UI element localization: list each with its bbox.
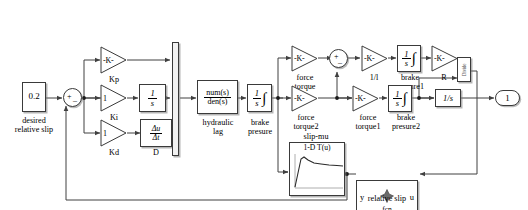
integral-sign-icon-1: ∫ bbox=[412, 53, 416, 64]
derivative-block-d[interactable]: Δu Δt bbox=[140, 119, 172, 147]
integrator-block-brake-pressure1[interactable]: 1 s ∫ bbox=[397, 45, 421, 72]
gain-kp-caption: Kp bbox=[96, 75, 132, 84]
output-port-label: 1 bbox=[505, 93, 510, 103]
gain-r-caption: R bbox=[428, 73, 460, 82]
integrator-block-output[interactable]: 1/s bbox=[435, 89, 461, 107]
brake-pressure1-num: 1 bbox=[402, 50, 410, 59]
sum-block-wheel[interactable]: + _ bbox=[329, 49, 348, 68]
sum-block-error[interactable]: + _ bbox=[63, 88, 82, 107]
gain-block-kd[interactable]: 1 bbox=[100, 119, 127, 147]
gain-inverse-inertia-value: -K- bbox=[364, 54, 375, 63]
gain-force-torque-value: -K- bbox=[294, 54, 305, 63]
brake-pressure2-caption: brake presure2 bbox=[386, 113, 426, 132]
brake-pressure-caption: brake presure bbox=[244, 118, 276, 137]
gain-block-inverse-inertia[interactable]: -K- bbox=[361, 45, 388, 72]
gain-force-torque2-value: -K- bbox=[294, 94, 305, 103]
lookup-table-title: 1-D T(u) bbox=[303, 144, 330, 152]
divide-block[interactable]: Divide bbox=[457, 57, 471, 82]
gain-force-torque1-value: -K- bbox=[355, 94, 366, 103]
brake-pressure1-den: s bbox=[402, 58, 410, 68]
lookup-table-plot bbox=[291, 152, 343, 195]
divide-label: Divide bbox=[461, 63, 467, 75]
mux-block[interactable] bbox=[172, 42, 179, 156]
gain-block-force-torque[interactable]: -K- bbox=[291, 45, 318, 72]
integrator-ki-num: 1 bbox=[148, 89, 156, 98]
fcn-label: fcn bbox=[382, 205, 392, 210]
brake-pressure-den: s bbox=[253, 98, 261, 108]
brake-pressure2-den: s bbox=[393, 98, 401, 108]
sum-minus-sign: _ bbox=[73, 95, 77, 103]
gain-kd-caption: Kd bbox=[96, 148, 132, 157]
derivative-num: Δu bbox=[150, 125, 163, 133]
hydraulic-lag-num: num(s) bbox=[204, 89, 231, 97]
output-port[interactable]: 1 bbox=[495, 90, 520, 106]
gain-ki-value: 1 bbox=[103, 94, 107, 103]
brake-pressure-num: 1 bbox=[253, 89, 261, 98]
integrator-block-brake-pressure[interactable]: 1 s ∫ bbox=[247, 84, 272, 112]
integrator-output-label: 1/s bbox=[443, 94, 453, 103]
hydraulic-lag-den: den(s) bbox=[204, 97, 231, 106]
brake-pressure2-num: 1 bbox=[393, 90, 401, 99]
derivative-caption: D bbox=[140, 148, 172, 157]
constant-block[interactable]: 0.2 bbox=[22, 82, 46, 112]
gain-kd-value: 1 bbox=[103, 129, 107, 138]
gain-block-kp[interactable]: -K- bbox=[100, 46, 127, 74]
lookup-table-caption: slip-mu bbox=[288, 132, 344, 141]
gain-block-ki[interactable]: 1 bbox=[100, 84, 127, 112]
constant-caption: desired relative slip bbox=[0, 116, 70, 135]
gain-force-torque2-caption: force torque2 bbox=[284, 113, 328, 132]
gain-kp-value: -K- bbox=[103, 56, 114, 65]
gain-inverse-inertia-caption: 1/l bbox=[358, 73, 390, 82]
block-diagram-canvas: 0.2 desired relative slip + _ -K- Kp 1 K… bbox=[0, 0, 528, 210]
constant-value: 0.2 bbox=[28, 92, 39, 101]
sum-wheel-minus-sign: _ bbox=[338, 57, 342, 65]
gain-block-force-torque1[interactable]: -K- bbox=[352, 85, 379, 112]
gain-block-force-torque2[interactable]: -K- bbox=[291, 85, 318, 112]
gain-force-torque1-caption: force torque1 bbox=[346, 113, 390, 132]
integral-sign-icon: ∫ bbox=[262, 93, 266, 104]
relative-slip-caption: relative slip bbox=[352, 194, 422, 203]
hydraulic-lag-caption: hydraulic lag bbox=[191, 118, 245, 137]
transfer-function-block-hydraulic-lag[interactable]: num(s) den(s) bbox=[197, 80, 238, 114]
gain-r-value: -K- bbox=[434, 54, 445, 63]
lookup-table-block[interactable]: 1-D T(u) bbox=[289, 142, 345, 196]
sum-plus-sign: + bbox=[67, 93, 72, 101]
integrator-ki-den: s bbox=[148, 98, 156, 108]
derivative-den: Δt bbox=[150, 133, 163, 142]
integrator-block-brake-pressure2[interactable]: 1 s ∫ bbox=[388, 85, 412, 112]
integrator-block-ki[interactable]: 1 s bbox=[139, 84, 166, 112]
integral-sign-icon-2: ∫ bbox=[403, 93, 407, 104]
gain-block-r[interactable]: -K- bbox=[431, 45, 458, 72]
